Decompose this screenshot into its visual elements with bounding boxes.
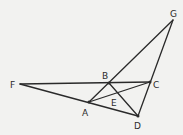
label-A: A — [82, 108, 89, 118]
point-D — [137, 115, 140, 118]
label-E: E — [111, 98, 117, 108]
label-D: D — [134, 121, 141, 131]
label-C: C — [153, 80, 159, 90]
segments — [20, 20, 173, 116]
segment-GD — [138, 20, 173, 116]
label-B: B — [102, 71, 108, 81]
segment-AG — [89, 20, 173, 102]
point-C — [149, 81, 152, 84]
segment-FC — [20, 82, 150, 84]
segment-FD — [20, 84, 138, 116]
geometry-diagram: F B C A E D G — [0, 0, 183, 135]
point-A — [88, 101, 91, 104]
label-F: F — [10, 80, 15, 90]
labels: F B C A E D G — [10, 9, 177, 131]
point-B — [108, 82, 111, 85]
segment-AC — [89, 82, 150, 102]
label-G: G — [170, 9, 177, 19]
